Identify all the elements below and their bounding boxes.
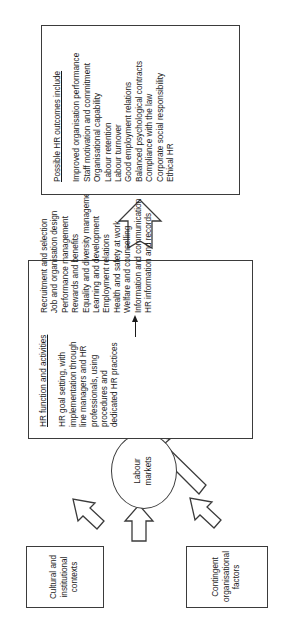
hr-practice-item: Learning and development <box>92 186 102 313</box>
arrow-contingent-to-labour-markets <box>190 498 221 528</box>
hr-practice-item: Rewards and benefits <box>71 186 81 313</box>
hr-practice-item: Health and safety at work <box>113 186 123 313</box>
arrow-cultural-to-hr-function <box>73 499 104 529</box>
hr-practice-item: Performance management <box>61 186 71 313</box>
cultural-box-label: Cultural and institutional contexts <box>49 547 81 607</box>
possible-hr-outcomes-box: Possible HR outcomes include Improved or… <box>41 25 240 195</box>
hr-outcome-item: Good employment relations <box>124 38 134 182</box>
hr-outcome-item: Balanced psychological contracts <box>135 38 145 182</box>
hr-practices-list: Recruitment and selectionJob and organis… <box>40 186 154 313</box>
hr-practice-item: Information and communication <box>134 186 144 313</box>
hr-practice-item: Recruitment and selection <box>40 186 50 313</box>
contingent-organisational-factors-box: Contingent organisational factors <box>186 546 268 608</box>
arrow-cultural-to-labour-markets <box>125 505 153 541</box>
hr-function-title: HR function and activities <box>39 339 49 427</box>
hr-practice-item: Welfare and counselling <box>123 186 133 313</box>
hr-outcomes-list: Improved organisation performanceStaff m… <box>72 38 176 182</box>
hr-outcome-item: Ethical HR <box>166 38 176 182</box>
hr-practice-item: HR information and records <box>144 186 154 313</box>
hr-practices-column: Recruitment and selectionJob and organis… <box>39 186 154 313</box>
hr-outcome-item: Organisational capability <box>93 38 103 182</box>
hr-outcome-item: Improved organisation performance <box>72 38 82 182</box>
hr-outcome-item: Labour turnover <box>114 38 124 182</box>
hr-function-description: HR goal setting, with implementation thr… <box>58 339 120 427</box>
labour-markets-label: Labour markets <box>133 434 154 508</box>
diagram-canvas: Cultural and institutional contexts Cont… <box>0 0 298 629</box>
hr-description-to-practices-arrow <box>132 313 149 339</box>
contingent-box-label: Contingent organisational factors <box>211 547 243 607</box>
hr-outcome-item: Labour retention <box>104 38 114 182</box>
hr-practice-item: Equality and diversity management <box>82 186 92 313</box>
hr-outcome-item: Staff motivation and commitment <box>83 38 93 182</box>
right-arrow-icon <box>132 315 139 337</box>
hr-practice-item: Employment relations <box>102 186 112 313</box>
cultural-and-institutional-contexts-box: Cultural and institutional contexts <box>26 546 104 608</box>
outcomes-title: Possible HR outcomes include <box>53 38 63 182</box>
hr-function-description-column: HR function and activities HR goal setti… <box>39 339 130 427</box>
hr-outcome-item: Compliance with the law <box>145 38 155 182</box>
hr-function-and-activities-box: HR function and activities HR goal setti… <box>28 260 253 439</box>
labour-markets-node: Labour markets <box>111 433 177 509</box>
hr-outcome-item: Corporate social responsibility <box>156 38 166 182</box>
hr-practice-item: Job and organisation design <box>50 186 60 313</box>
